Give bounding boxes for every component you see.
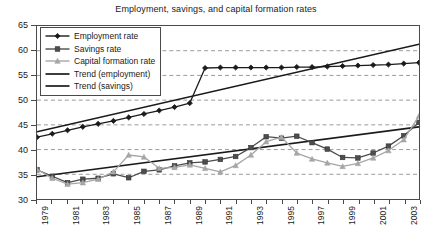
legend-diamond-icon (44, 30, 71, 42)
x-tick-mark (420, 200, 421, 204)
x-tick-label: 1999 (347, 206, 357, 225)
legend-item-label: Savings rate (74, 43, 121, 55)
x-tick-label: 1991 (224, 206, 234, 225)
x-tick-mark (113, 200, 114, 204)
x-tick-mark (374, 200, 375, 204)
x-tick-mark (312, 200, 313, 204)
x-axis: 1979198119831985198719891991199319951997… (36, 200, 420, 228)
x-tick-mark (389, 200, 390, 204)
x-tick-label: 2003 (409, 206, 419, 225)
y-axis: 3035404550556065 (0, 25, 36, 200)
x-tick-label: 1987 (163, 206, 173, 225)
x-tick-label: 1989 (194, 206, 204, 225)
x-tick-label: 1993 (255, 206, 265, 225)
x-tick-mark (343, 200, 344, 204)
legend-item[interactable]: Savings rate (44, 43, 155, 56)
x-tick-mark (266, 200, 267, 204)
x-tick-mark (144, 200, 145, 204)
legend-item-label: Trend (savings) (74, 80, 133, 92)
legend-line-icon (44, 80, 71, 92)
y-tick-label: 45 (18, 120, 28, 130)
y-tick-label: 35 (18, 170, 28, 180)
x-tick-label: 1981 (71, 206, 81, 225)
x-tick-label: 1979 (40, 206, 50, 225)
chart-legend: Employment rateSavings rateCapital forma… (40, 27, 161, 96)
x-tick-mark (67, 200, 68, 204)
legend-item-label: Trend (employment) (74, 68, 150, 80)
legend-square-icon (44, 43, 71, 55)
x-tick-mark (190, 200, 191, 204)
y-tick-label: 55 (18, 70, 28, 80)
legend-item[interactable]: Capital formation rate (44, 55, 155, 68)
x-tick-mark (220, 200, 221, 204)
x-tick-mark (282, 200, 283, 204)
x-tick-mark (97, 200, 98, 204)
y-tick-label: 65 (18, 20, 28, 30)
x-tick-mark (205, 200, 206, 204)
x-tick-mark (405, 200, 406, 204)
legend-triangle-icon (44, 55, 71, 67)
x-tick-mark (359, 200, 360, 204)
y-tick-label: 40 (18, 145, 28, 155)
x-tick-label: 1985 (132, 206, 142, 225)
x-tick-mark (128, 200, 129, 204)
chart-figure: Employment, savings, and capital formati… (0, 0, 432, 228)
x-tick-mark (36, 200, 37, 204)
legend-item[interactable]: Trend (employment) (44, 68, 155, 81)
y-tick-label: 30 (18, 195, 28, 205)
y-tick-label: 60 (18, 45, 28, 55)
legend-item-label: Capital formation rate (74, 55, 155, 67)
legend-item[interactable]: Employment rate (44, 30, 155, 43)
x-tick-label: 1995 (286, 206, 296, 225)
x-tick-mark (297, 200, 298, 204)
x-tick-mark (251, 200, 252, 204)
y-tick-label: 50 (18, 95, 28, 105)
x-tick-mark (82, 200, 83, 204)
x-tick-mark (174, 200, 175, 204)
x-tick-mark (236, 200, 237, 204)
legend-line-icon (44, 68, 71, 80)
x-tick-label: 2001 (378, 206, 388, 225)
chart-title: Employment, savings, and capital formati… (0, 4, 432, 14)
x-tick-mark (328, 200, 329, 204)
x-tick-mark (159, 200, 160, 204)
legend-item-label: Employment rate (74, 30, 138, 42)
x-tick-mark (51, 200, 52, 204)
x-tick-label: 1997 (316, 206, 326, 225)
legend-item[interactable]: Trend (savings) (44, 80, 155, 93)
x-tick-label: 1983 (101, 206, 111, 225)
